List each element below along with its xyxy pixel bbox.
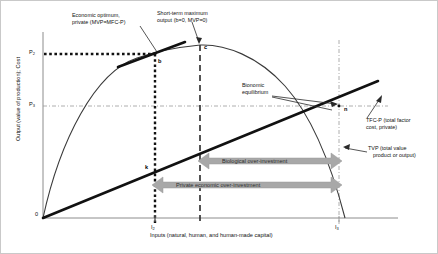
xtick-i3-sub: 3 [337, 226, 339, 231]
annotation-bionomic-line1: Bionomic [242, 82, 264, 88]
band-label-biological: Biological over-investment [222, 158, 287, 164]
annotation-bionomic-equilibrium: Bionomic equilibrium [242, 82, 268, 95]
annotation-tvp-line1: TVP (total value [368, 145, 407, 151]
xtick-i2-sub: 2 [153, 226, 155, 231]
annotation-tvp: TVP (total value product or output) [368, 145, 416, 158]
annotation-economic-optimum-line1: Economic optimum, [72, 12, 120, 18]
ytick-p2-sub: 2 [33, 51, 35, 56]
annotation-short-term-maximum-line2: output (b=0, MVP=0) [157, 17, 207, 23]
point-marker-n [338, 105, 341, 108]
point-label-k: k [145, 164, 148, 170]
xtick-label-i2: I2 [151, 224, 155, 231]
annotation-bionomic-line2: equilibrium [242, 89, 268, 95]
y-axis-title: Output (value of production); Cost [15, 29, 21, 169]
annotation-short-term-maximum-line1: Short-term maximum [157, 10, 208, 16]
annotation-short-term-maximum: Short-term maximum output (b=0, MVP=0) [157, 10, 208, 23]
point-label-b: b [158, 58, 161, 64]
band-label-private-economic: Private economic over-investment [176, 182, 260, 188]
ytick-label-p3: P3 [29, 101, 35, 108]
origin-label: 0 [35, 211, 38, 217]
annotation-tfc-p-line2: cost, private) [366, 124, 397, 130]
point-marker-b [154, 53, 157, 56]
point-label-c: c [204, 44, 207, 50]
annotation-tvp-line2: product or output) [368, 152, 416, 158]
annotation-economic-optimum: Economic optimum, private (MVP=MFC-P) [72, 12, 126, 25]
annotation-economic-optimum-line2: private (MVP=MFC-P) [72, 19, 126, 25]
ytick-label-p2: P2 [29, 49, 35, 56]
xtick-label-i3: I3 [335, 224, 339, 231]
x-axis-title: Inputs (natural, human, and human-made c… [150, 232, 273, 238]
annotation-tfc-p-line1: TFC-P (total factor [366, 117, 411, 123]
point-label-n: n [344, 106, 347, 112]
ytick-p3-sub: 3 [33, 103, 35, 108]
annotation-tfc-p: TFC-P (total factor cost, private) [366, 117, 411, 130]
bioeconomic-fishery-diagram: Output (value of production); Cost Input… [0, 0, 438, 254]
